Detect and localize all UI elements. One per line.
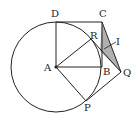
label-P: P — [84, 102, 91, 113]
label-C: C — [99, 8, 107, 19]
geometry-diagram: D C R I A B Q P — [0, 0, 138, 121]
label-I: I — [116, 36, 120, 47]
point-A — [54, 65, 57, 68]
label-R: R — [90, 30, 98, 41]
label-A: A — [43, 62, 52, 73]
diagram-canvas: D C R I A B Q P — [0, 0, 138, 121]
segment-AP — [56, 67, 86, 101]
segment-AR — [56, 39, 91, 67]
label-D: D — [51, 8, 59, 19]
label-Q: Q — [123, 67, 131, 78]
label-B: B — [103, 66, 110, 77]
